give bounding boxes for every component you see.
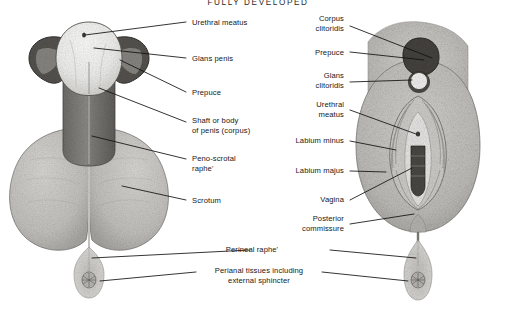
male-genitalia-drawing [10,22,169,298]
label-perianal-tissues: Perianal tissues including external sphi… [215,266,303,285]
urethral-meatus-point-female [416,131,420,136]
anus-male [82,272,96,288]
label-urethral-meatus-female: Urethral meatus [264,100,344,119]
label-labium-minus: Labium minus [254,136,344,146]
label-peno-scrotal-raphe: Peno-scrotal raphe' [192,154,236,173]
vaginal-introitus [411,146,425,196]
illustration-canvas: FULLY DEVELOPED [0,0,516,311]
label-perineal-raphe: Perineal raphe' [226,245,278,255]
male-perineum [74,247,104,298]
label-posterior-commissure: Posterior commissure [264,214,344,233]
glans-clitoridis-shape [408,71,430,93]
leader-perineal-raphe-right [330,250,416,258]
anatomy-artwork [0,0,516,311]
label-urethral-meatus: Urethral meatus [192,18,248,28]
leader-perianal-left [100,272,196,281]
label-scrotum: Scrotum [192,196,221,206]
label-corpus-clitoridis: Corpus clitoridis [264,14,344,33]
prepuce-hood-female [403,38,439,76]
anus-female [411,272,425,288]
label-vagina: Vagina [264,195,344,205]
leader-perianal-right [322,272,408,281]
label-labium-majus: Labium majus [254,166,344,176]
glans-penis-shape [56,22,122,96]
label-shaft-of-penis: Shaft or body of penis (corpus) [192,116,250,135]
label-glans-penis: Glans penis [192,54,233,64]
label-glans-clitoridis: Glans clitoridis [264,71,344,90]
female-genitalia-drawing [356,22,480,300]
label-prepuce: Prepuce [192,88,221,98]
label-prepuce-female: Prepuce [264,48,344,58]
